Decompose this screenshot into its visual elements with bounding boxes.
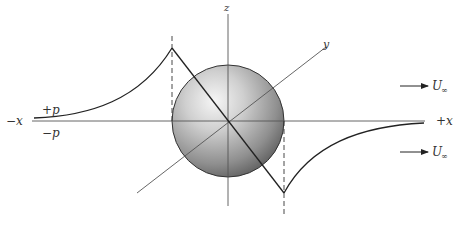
z-label: z — [223, 2, 230, 13]
pressure-curve-negative — [284, 123, 424, 193]
sphere-pressure-diagram: −x +x z y +p −p U ∞ U ∞ — [0, 0, 467, 228]
x-pos-label: +x — [436, 114, 453, 128]
y-label: y — [322, 38, 330, 51]
positive-pressure-label: +p — [42, 103, 60, 117]
negative-pressure-label: −p — [42, 126, 60, 140]
freestream-label-subscript: ∞ — [441, 152, 448, 161]
freestream-label-subscript: ∞ — [441, 86, 448, 95]
x-neg-label: −x — [6, 114, 23, 128]
freestream-label-bottom: U ∞ — [432, 145, 448, 161]
freestream-label-top: U ∞ — [432, 79, 448, 95]
